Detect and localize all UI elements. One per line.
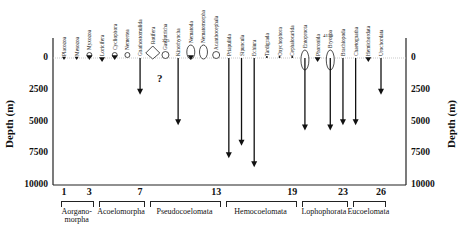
dot-icon	[266, 56, 268, 58]
taxon-label: Urochordata	[378, 30, 384, 56]
taxon-label: Rotifera	[150, 27, 156, 44]
arrow-down-icon	[75, 57, 79, 60]
taxon-label: Cycliophora	[112, 24, 118, 50]
arrow-down-icon	[251, 161, 257, 167]
group-label-line2: morpha	[57, 216, 96, 224]
taxon-label: Myxozoa	[86, 30, 92, 50]
x-tick: 13	[211, 186, 221, 197]
arrow-down-icon	[99, 57, 105, 62]
taxon-label: Sipuncula	[239, 35, 245, 56]
arrow-down-icon	[353, 119, 359, 125]
x-tick: 3	[87, 186, 92, 197]
arrow-down-icon	[112, 55, 118, 60]
x-tick: 1	[62, 186, 67, 197]
circle-icon	[213, 52, 220, 59]
group-label: Pseudocoelomata	[142, 208, 227, 216]
diagram-canvas	[0, 0, 467, 226]
arrow-down-icon	[302, 124, 308, 130]
taxon-label: Loricifera	[99, 35, 105, 56]
x-tick: 26	[376, 186, 386, 197]
taxon-label: Mesozoa	[74, 37, 80, 56]
depth-distribution-diagram: 002500250050005000750075001000010000Dept…	[0, 0, 467, 226]
annotation-375: 375	[162, 38, 170, 43]
arrow-down-icon	[175, 119, 181, 125]
circle-icon	[125, 53, 130, 58]
taxon-label: Echiura	[251, 40, 257, 56]
y-axis-label-right: Depth (m)	[445, 100, 457, 148]
taxon-label: Acanthocephala	[213, 16, 219, 50]
y-tick-left: 2500	[29, 84, 48, 94]
group-label: Hemocoelomata	[218, 208, 303, 216]
y-tick-left: 0	[43, 52, 48, 62]
taxon-label: Placozoa	[61, 37, 67, 56]
arrow-down-icon	[239, 140, 245, 146]
dot-icon	[291, 56, 293, 58]
arrow-down-icon	[62, 57, 66, 60]
taxon-label: Nematoda	[188, 21, 194, 43]
arrow-down-icon	[315, 57, 321, 62]
arrow-down-icon	[137, 89, 143, 95]
taxon-label: Priapulida	[226, 34, 232, 56]
question-mark: ?	[157, 72, 163, 84]
y-tick-right: 5000	[411, 116, 430, 126]
arrow-down-icon	[378, 89, 384, 95]
x-tick: 23	[338, 186, 348, 197]
group-label: Eucoelomata	[345, 208, 392, 216]
taxon-label: Chaetognatha	[353, 27, 359, 56]
taxon-label: Onychophora	[277, 27, 283, 56]
diamond-icon	[146, 46, 160, 59]
x-tick: 7	[138, 186, 143, 197]
taxon-label: Phoronida	[315, 34, 321, 56]
x-tick: 19	[287, 186, 297, 197]
y-tick-right: 2500	[411, 84, 430, 94]
taxon-label: Gastrotricha	[162, 24, 168, 50]
y-tick-right: 10000	[411, 179, 435, 189]
taxon-label: Cephalocarida	[289, 25, 295, 56]
arrow-down-icon	[365, 57, 371, 62]
y-tick-left: 7500	[29, 147, 48, 157]
y-tick-right: 0	[411, 52, 416, 62]
taxon-label: Nematomorpha	[200, 10, 206, 43]
taxon-label: Kinorhyncha	[175, 28, 181, 56]
arrow-down-icon	[226, 152, 232, 158]
y-tick-left: 10000	[24, 179, 48, 189]
circle-icon	[162, 52, 169, 59]
y-tick-right: 7500	[411, 147, 430, 157]
y-axis-label-left: Depth (m)	[3, 100, 15, 148]
taxon-label: Tardigrada	[264, 33, 270, 56]
y-tick-left: 5000	[29, 116, 48, 126]
taxon-label: Entoprocta	[302, 25, 308, 48]
arrow-down-icon	[327, 124, 333, 130]
taxon-label: Gnathostomulida	[137, 20, 143, 57]
taxon-label: Brachiopoda	[340, 29, 346, 56]
arrow-down-icon	[340, 119, 346, 125]
taxon-label: Nemertea	[124, 29, 130, 50]
taxon-label: Hemichordata	[365, 26, 371, 56]
oval-icon	[199, 45, 207, 59]
dot-icon	[279, 56, 281, 58]
annotation-4150: 4150	[323, 33, 333, 38]
